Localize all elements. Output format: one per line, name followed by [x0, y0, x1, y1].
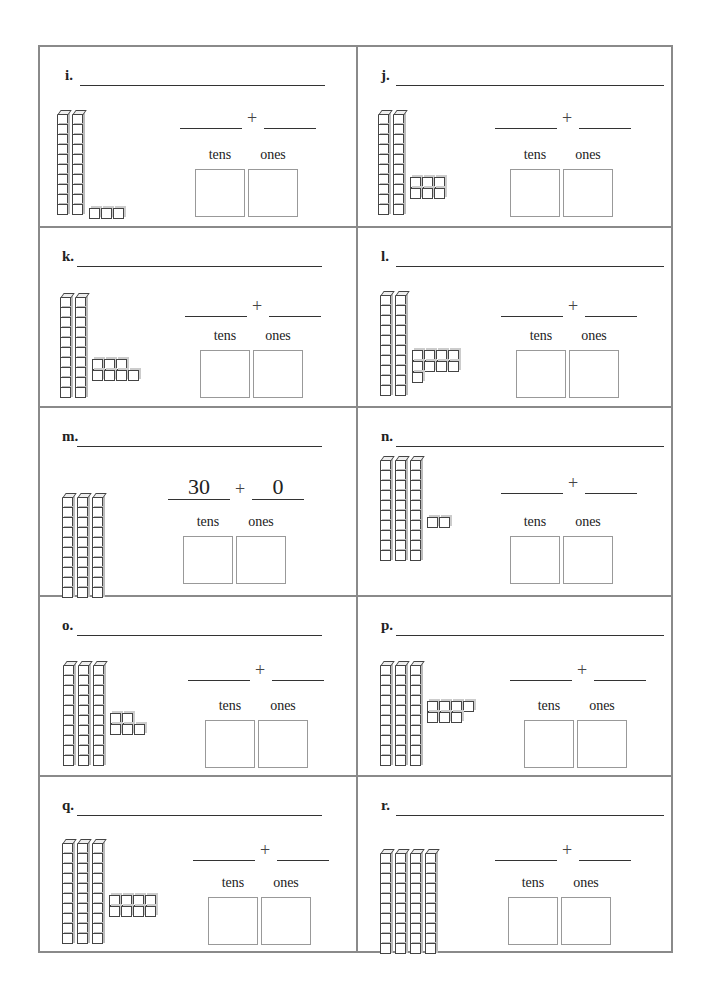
tens-rod-icon — [395, 849, 406, 954]
ones-answer-box[interactable] — [569, 350, 619, 398]
plus-sign: + — [562, 108, 572, 129]
ones-answer-box[interactable] — [563, 169, 613, 217]
tens-rod-icon — [75, 293, 86, 398]
ones-cube-icon — [121, 895, 132, 906]
answer-line[interactable] — [396, 815, 664, 816]
ones-cube-icon — [412, 361, 423, 372]
ones-blank[interactable] — [264, 128, 316, 129]
tens-answer-box[interactable] — [516, 350, 566, 398]
expanded-form: + — [501, 293, 641, 323]
ones-answer-box[interactable] — [258, 720, 308, 768]
ones-answer-box[interactable] — [563, 536, 613, 584]
tens-rod-icon — [92, 839, 103, 944]
tens-rod-icon — [395, 456, 406, 561]
problem-label: i. — [65, 67, 73, 84]
problem-label: l. — [381, 248, 389, 265]
ones-cube-icon — [121, 906, 132, 917]
tens-blank[interactable] — [495, 860, 557, 861]
ones-cube-icon — [145, 906, 156, 917]
ones-blank[interactable] — [585, 316, 637, 317]
ones-cube-icon — [412, 350, 423, 361]
ones-cube-icon — [116, 370, 127, 381]
tens-answer-box[interactable] — [524, 720, 574, 768]
tens-rod-icon — [395, 661, 406, 766]
ones-cube-icon — [145, 895, 156, 906]
answer-line[interactable] — [80, 85, 325, 86]
tens-answer-box[interactable] — [508, 897, 558, 945]
tens-answer-box[interactable] — [510, 536, 560, 584]
tens-column-label: tens — [208, 875, 258, 891]
answer-line[interactable] — [396, 266, 664, 267]
ones-answer-box[interactable] — [577, 720, 627, 768]
tens-blank[interactable] — [188, 680, 250, 681]
ones-answer-box[interactable] — [236, 536, 286, 584]
ones-cube-icon — [422, 177, 433, 188]
ones-cube-icon — [133, 906, 144, 917]
ones-column-label: ones — [569, 328, 619, 344]
ones-column-label: ones — [563, 514, 613, 530]
tens-blank[interactable] — [510, 680, 572, 681]
ones-cube-icon — [128, 370, 139, 381]
ones-column-label: ones — [258, 698, 308, 714]
problem-label: q. — [62, 797, 74, 814]
ones-cube-icon — [133, 895, 144, 906]
answer-line[interactable] — [77, 635, 322, 636]
ones-cube-icon — [92, 359, 103, 370]
tens-rod-icon — [410, 456, 421, 561]
tens-answer-box[interactable] — [183, 536, 233, 584]
ones-cube-icon — [427, 517, 438, 528]
plus-sign: + — [562, 840, 572, 861]
ones-answer-box[interactable] — [248, 169, 298, 217]
ones-cube-icon — [104, 370, 115, 381]
tens-answer-box[interactable] — [208, 897, 258, 945]
tens-rod-icon — [92, 493, 103, 598]
tens-answer-box[interactable] — [510, 169, 560, 217]
tens-blank[interactable] — [185, 316, 247, 317]
ones-answer-box[interactable] — [253, 350, 303, 398]
tens-rod-icon — [72, 110, 83, 215]
tens-rod-icon — [380, 661, 391, 766]
problem-label: r. — [381, 797, 390, 814]
tens-rod-icon — [380, 456, 391, 561]
plus-sign: + — [568, 296, 578, 317]
expanded-form: + — [495, 837, 635, 867]
ones-answer-box[interactable] — [561, 897, 611, 945]
ones-cube-icon — [439, 517, 450, 528]
answer-line[interactable] — [77, 266, 322, 267]
ones-answer-box[interactable] — [261, 897, 311, 945]
ones-cube-icon — [134, 724, 145, 735]
ones-blank[interactable] — [594, 680, 646, 681]
tens-blank[interactable] — [193, 860, 255, 861]
tens-column-label: tens — [516, 328, 566, 344]
answer-line[interactable] — [396, 635, 664, 636]
ones-blank[interactable] — [585, 493, 637, 494]
problem-r: r.+tensones — [358, 777, 674, 955]
tens-blank-value: 30 — [168, 474, 230, 500]
tens-answer-box[interactable] — [195, 169, 245, 217]
tens-answer-box[interactable] — [200, 350, 250, 398]
tens-blank[interactable] — [180, 128, 242, 129]
ones-cube-icon — [439, 712, 450, 723]
answer-line[interactable] — [396, 85, 664, 86]
tens-rod-icon — [393, 110, 404, 215]
tens-blank[interactable] — [501, 493, 563, 494]
ones-blank[interactable] — [579, 128, 631, 129]
answer-line[interactable] — [77, 815, 322, 816]
tens-answer-box[interactable] — [205, 720, 255, 768]
tens-column-label: tens — [508, 875, 558, 891]
tens-column-label: tens — [524, 698, 574, 714]
ones-column-label: ones — [253, 328, 303, 344]
problem-o: o.+tensones — [40, 597, 356, 775]
ones-blank[interactable] — [277, 860, 329, 861]
tens-rod-icon — [425, 849, 436, 954]
answer-line[interactable] — [396, 446, 664, 447]
ones-blank[interactable] — [269, 316, 321, 317]
ones-cube-icon — [451, 701, 462, 712]
ones-blank[interactable] — [272, 680, 324, 681]
ones-blank[interactable] — [579, 860, 631, 861]
tens-blank[interactable] — [501, 316, 563, 317]
ones-cube-icon — [427, 701, 438, 712]
tens-blank[interactable] — [495, 128, 557, 129]
answer-line[interactable] — [77, 446, 322, 447]
ones-column-label: ones — [563, 147, 613, 163]
